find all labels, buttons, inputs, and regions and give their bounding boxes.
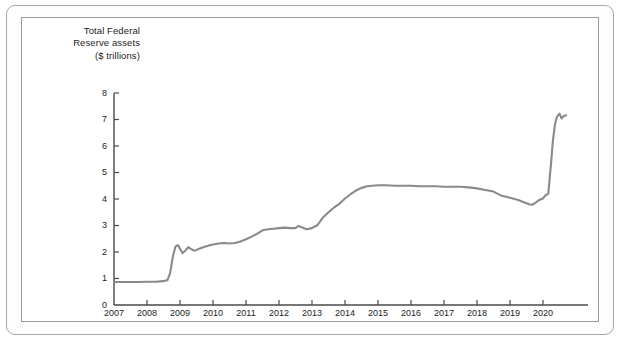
x-tick-label: 2020 — [526, 309, 560, 318]
x-tick-label: 2009 — [163, 309, 197, 318]
y-tick-label: 7 — [91, 115, 107, 124]
y-tick-label: 1 — [91, 274, 107, 283]
x-tick-label: 2014 — [328, 309, 362, 318]
x-tick-label: 2007 — [97, 309, 131, 318]
figure-root: Total Federal Reserve assets ($ trillion… — [0, 0, 622, 342]
y-tick-label: 4 — [91, 195, 107, 204]
x-tick-label: 2015 — [361, 309, 395, 318]
x-tick-label: 2008 — [130, 309, 164, 318]
x-tick-label: 2013 — [295, 309, 329, 318]
y-tick-label: 3 — [91, 221, 107, 230]
inner-plate-frame — [21, 17, 599, 322]
y-tick-label: 2 — [91, 248, 107, 257]
x-tick-label: 2016 — [394, 309, 428, 318]
x-tick-label: 2018 — [460, 309, 494, 318]
x-tick-label: 2019 — [493, 309, 527, 318]
x-tick-label: 2011 — [229, 309, 263, 318]
y-tick-label: 6 — [91, 142, 107, 151]
x-tick-label: 2010 — [196, 309, 230, 318]
chart-title: Total Federal Reserve assets ($ trillion… — [28, 25, 140, 62]
x-tick-label: 2012 — [262, 309, 296, 318]
y-tick-label: 8 — [91, 89, 107, 98]
y-tick-label: 5 — [91, 168, 107, 177]
x-tick-label: 2017 — [427, 309, 461, 318]
